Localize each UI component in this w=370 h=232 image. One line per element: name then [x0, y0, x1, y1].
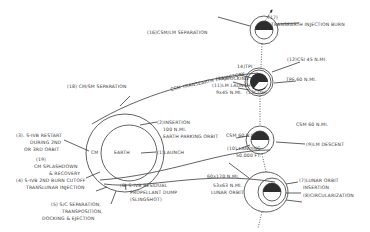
- label-lunar-orbit: LUNAR ORBIT: [211, 190, 244, 196]
- label-docking: (15)DOCKING: [216, 76, 249, 82]
- label-loi-2: INSERTION: [303, 185, 329, 191]
- label-csm-60: CSM 60 N.MI.: [226, 133, 258, 139]
- label-landing-alt: 50,000 FT.: [236, 153, 261, 159]
- label-loi: (7)LUNAR ORBIT: [299, 178, 339, 184]
- label-propellant-dump-2: PROPELLANT DUMP: [130, 190, 177, 196]
- label-tei: TRANSEARTH INJECTION BURN: [271, 22, 345, 28]
- earth-label: EARTH: [114, 150, 130, 156]
- label-insertion-orbit: EARTH PARKING ORBIT: [163, 134, 218, 140]
- label-splashdown: CM SPLASHDOWN: [34, 164, 78, 170]
- label-tpf: TPF 60 N.MI.: [286, 77, 316, 83]
- label-separation: (5) S/C SEPARATION,: [51, 202, 101, 208]
- label-landing: (10) LANDING: [227, 146, 261, 152]
- label-lm-launch: (11)LM LAUNCH: [212, 83, 251, 89]
- label-launch: (1)LAUNCH: [157, 150, 184, 156]
- label-splashdown-num: (19): [36, 157, 46, 163]
- label-cdh: (13CDH): [246, 90, 267, 96]
- label-splashdown-2: & RECOVERY: [49, 171, 80, 177]
- label-insertion-altitude: 100 N.MI.: [163, 127, 186, 133]
- label-slingshot: (SLINGSHOT): [130, 197, 162, 203]
- label-tli: TRANSLUNAR INJECTION: [26, 185, 85, 191]
- label-cm-sm-separation: (18) CM/SM SEPARATION: [67, 84, 127, 90]
- label-lm-launch-orbit: 9x45 N.MI.: [216, 90, 242, 96]
- label-tpi: 14)TPI: [237, 64, 252, 70]
- label-lm-descent: (9)LM DESCENT: [306, 142, 344, 148]
- label-53x63: 53x63 N.MI.: [213, 183, 242, 189]
- cm-label: CM: [91, 150, 98, 156]
- label-sivb-cutoff: (4) S-IVB 2ND BURN CUTOFF: [16, 178, 86, 184]
- label-csm-60-upper: CSM 60 N.MI.: [296, 122, 328, 128]
- label-propellant-dump: (6) S-IVB RESIDUAL: [120, 183, 167, 189]
- label-sivb-restart-2: DURING 2ND: [30, 140, 61, 146]
- label-csi: (12)CSI 45 N.MI.: [287, 57, 327, 63]
- label-tei-num: (17): [268, 15, 278, 21]
- label-transposition: TRANSPOSITION,: [62, 209, 103, 215]
- label-sivb-restart-3: OR 3RD ORBIT: [24, 147, 59, 153]
- label-60x170: 60x170 N.MI.: [207, 174, 239, 180]
- mission-profile-diagram: EARTH CM (1)LAUNCH (2)INSERTION 100 N.MI…: [0, 0, 370, 232]
- label-insertion: (2)INSERTION: [157, 120, 190, 126]
- label-docking-ejection: DOCKING & EJECTION: [42, 216, 95, 222]
- label-circularization: (8)CIRCULARIZATION: [303, 193, 354, 199]
- label-sivb-restart: (3). S-IVB RESTART: [16, 133, 62, 139]
- label-csm-lm-separation: (16)CSM/LM SEPARATION: [147, 30, 208, 36]
